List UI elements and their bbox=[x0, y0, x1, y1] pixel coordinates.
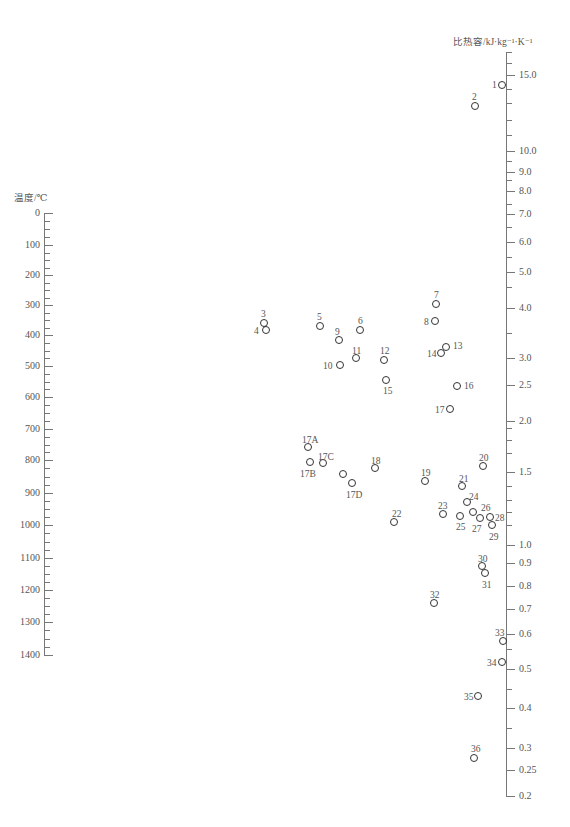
left-axis-minor-tick bbox=[44, 351, 50, 352]
left-axis-tick-label: 1300 bbox=[0, 617, 40, 627]
left-axis-minor-tick bbox=[44, 253, 50, 254]
left-axis-minor-tick bbox=[44, 421, 50, 422]
data-point-marker bbox=[390, 518, 398, 526]
data-point-marker bbox=[481, 569, 489, 577]
right-axis-major-tick bbox=[506, 75, 515, 76]
left-axis-line bbox=[44, 213, 45, 655]
right-axis-line bbox=[506, 52, 507, 796]
specific-heat-nomogram: 温度/℃ 01002003004005006007008009001000110… bbox=[0, 0, 570, 827]
data-point-label: 12 bbox=[380, 346, 390, 356]
right-axis-major-tick bbox=[506, 669, 515, 670]
data-point-label: 11 bbox=[352, 346, 361, 356]
left-axis-minor-tick bbox=[44, 445, 50, 446]
right-axis-tick-label: 0.25 bbox=[519, 765, 537, 775]
right-axis-major-tick bbox=[506, 708, 515, 709]
left-axis-minor-tick bbox=[44, 582, 50, 583]
left-axis-minor-tick bbox=[44, 382, 50, 383]
data-point-label: 23 bbox=[438, 501, 448, 511]
left-axis-tick-label: 400 bbox=[0, 330, 40, 340]
right-axis-minor-tick bbox=[506, 512, 512, 513]
data-point-label: 29 bbox=[489, 532, 499, 542]
data-point-label: 17C bbox=[318, 452, 334, 462]
left-axis-minor-tick bbox=[44, 598, 50, 599]
left-axis-tick-label: 1100 bbox=[0, 553, 40, 563]
right-axis-major-tick bbox=[506, 748, 515, 749]
data-point-label: 8 bbox=[424, 317, 429, 327]
left-axis-minor-tick bbox=[44, 320, 50, 321]
left-axis-minor-tick bbox=[44, 413, 50, 414]
left-axis-tick-label: 100 bbox=[0, 240, 40, 250]
data-point-marker bbox=[306, 458, 314, 466]
right-axis-major-tick bbox=[506, 151, 515, 152]
right-axis-minor-tick bbox=[506, 689, 512, 690]
data-point-label: 17B bbox=[300, 469, 316, 479]
data-point-label: 10 bbox=[323, 361, 333, 371]
left-axis-minor-tick bbox=[44, 606, 50, 607]
right-axis-minor-tick bbox=[506, 728, 512, 729]
right-axis-minor-tick bbox=[506, 135, 512, 136]
right-axis-minor-tick bbox=[506, 257, 512, 258]
data-point-label: 30 bbox=[478, 554, 488, 564]
right-axis-tick-label: 0.2 bbox=[519, 791, 532, 801]
left-axis-major-tick bbox=[44, 335, 53, 336]
left-axis-major-tick bbox=[44, 366, 53, 367]
left-axis-tick-label: 200 bbox=[0, 270, 40, 280]
left-axis-major-tick bbox=[44, 590, 53, 591]
right-axis-minor-tick bbox=[506, 52, 512, 53]
data-point-marker bbox=[470, 754, 478, 762]
right-axis-tick-label: 15.0 bbox=[519, 70, 537, 80]
left-axis-minor-tick bbox=[44, 290, 50, 291]
right-axis-tick-label: 7.0 bbox=[519, 209, 532, 219]
data-point-marker bbox=[488, 521, 496, 529]
left-axis-minor-tick bbox=[44, 477, 50, 478]
data-point-marker bbox=[339, 470, 347, 478]
right-axis-major-tick bbox=[506, 272, 515, 273]
right-axis-tick-label: 6.0 bbox=[519, 237, 532, 247]
data-point-label: 36 bbox=[471, 744, 481, 754]
data-point-label: 17D bbox=[346, 490, 362, 500]
data-point-marker bbox=[437, 349, 445, 357]
left-axis-major-tick bbox=[44, 622, 53, 623]
data-point-label: 7 bbox=[434, 290, 439, 300]
right-axis-major-tick bbox=[506, 586, 515, 587]
left-axis-major-tick bbox=[44, 275, 53, 276]
right-axis-minor-tick bbox=[506, 500, 512, 501]
left-axis-major-tick bbox=[44, 213, 53, 214]
data-point-label: 22 bbox=[392, 509, 402, 519]
data-point-marker bbox=[356, 326, 364, 334]
right-axis-tick-label: 0.9 bbox=[519, 558, 532, 568]
left-axis-minor-tick bbox=[44, 374, 50, 375]
data-point-label: 17 bbox=[435, 405, 445, 415]
data-point-label: 35 bbox=[464, 692, 474, 702]
right-axis-minor-tick bbox=[506, 227, 512, 228]
right-axis-minor-tick bbox=[506, 204, 512, 205]
right-axis-tick-label: 5.0 bbox=[519, 267, 532, 277]
data-point-marker bbox=[421, 477, 429, 485]
right-axis-tick-label: 0.5 bbox=[519, 664, 532, 674]
right-axis-tick-label: 0.3 bbox=[519, 743, 532, 753]
left-axis-major-tick bbox=[44, 558, 53, 559]
right-axis-minor-tick bbox=[506, 649, 512, 650]
left-axis-minor-tick bbox=[44, 452, 50, 453]
data-point-marker bbox=[382, 376, 390, 384]
right-axis-tick-label: 2.0 bbox=[519, 416, 532, 426]
right-axis-major-tick bbox=[506, 472, 515, 473]
data-point-label: 21 bbox=[459, 474, 469, 484]
data-point-label: 28 bbox=[495, 513, 505, 523]
data-point-marker bbox=[456, 512, 464, 520]
left-axis-minor-tick bbox=[44, 630, 50, 631]
right-axis-major-tick bbox=[506, 421, 515, 422]
right-axis-tick-label: 8.0 bbox=[519, 186, 532, 196]
data-point-label: 2 bbox=[472, 92, 477, 102]
left-axis-minor-tick bbox=[44, 229, 50, 230]
data-point-marker bbox=[348, 479, 356, 487]
right-axis-minor-tick bbox=[506, 440, 512, 441]
data-point-marker bbox=[474, 692, 482, 700]
data-point-label: 15 bbox=[383, 386, 393, 396]
right-axis-minor-tick bbox=[506, 486, 512, 487]
right-axis-minor-tick bbox=[506, 428, 512, 429]
data-point-marker bbox=[453, 382, 461, 390]
left-axis-major-tick bbox=[44, 305, 53, 306]
data-point-label: 19 bbox=[421, 468, 431, 478]
data-point-label: 6 bbox=[358, 316, 363, 326]
